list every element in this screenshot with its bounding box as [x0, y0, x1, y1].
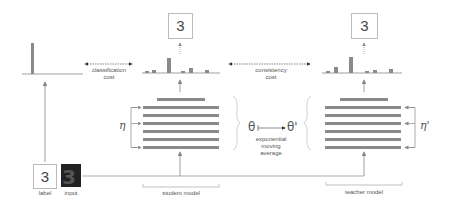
theta-prime-symbol: θ'	[287, 120, 298, 134]
student-distribution	[142, 58, 220, 73]
teacher-network	[325, 80, 415, 165]
teacher-distribution	[322, 57, 402, 73]
input-caption: input	[60, 190, 82, 197]
target-distribution	[22, 43, 83, 74]
ema-label: exponential moving average	[248, 136, 294, 157]
svg-text:3: 3	[62, 165, 76, 189]
student-prediction-box: 3	[168, 13, 193, 39]
diagram-canvas: 3	[0, 0, 449, 205]
student-model-label: student model	[150, 190, 212, 197]
eta-prime-symbol: η'	[420, 119, 430, 132]
label-box: 3	[33, 164, 57, 189]
theta-symbol: θ	[248, 120, 255, 134]
consistency-cost-label: consistency cost	[250, 67, 292, 81]
teacher-model-label: teacher model	[333, 189, 395, 196]
student-network	[131, 80, 219, 165]
teacher-prediction: 3	[360, 17, 368, 34]
label-value: 3	[41, 168, 49, 185]
classification-cost-label: classification cost	[88, 67, 130, 81]
label-caption: label	[33, 190, 57, 197]
input-image: 3	[61, 164, 81, 189]
teacher-prediction-box: 3	[351, 13, 378, 39]
eta-symbol: η	[119, 119, 126, 132]
student-prediction: 3	[176, 17, 184, 34]
